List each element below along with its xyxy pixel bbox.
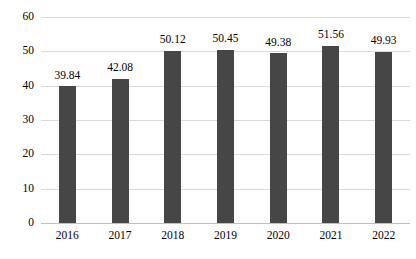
x-axis-tick-label: 2020 xyxy=(252,230,305,242)
bar[interactable] xyxy=(375,52,392,223)
bar[interactable] xyxy=(59,86,76,223)
bar-chart: 0102030405060 39.8442.0850.1250.4549.385… xyxy=(0,0,416,259)
bar-value-label: 42.08 xyxy=(107,62,133,74)
x-axis-tick-labels: 2016201720182019202020212022 xyxy=(41,230,410,242)
bar-value-label: 49.93 xyxy=(371,35,397,47)
y-axis-tick-label: 20 xyxy=(23,149,35,161)
x-axis-tick-label: 2017 xyxy=(94,230,147,242)
bar-value-label: 50.12 xyxy=(160,34,186,46)
bar-slot: 49.93 xyxy=(357,17,410,223)
x-axis-tick-label: 2022 xyxy=(357,230,410,242)
y-axis-tick-label: 30 xyxy=(23,114,35,126)
bar-slot: 50.12 xyxy=(146,17,199,223)
bar-slot: 49.38 xyxy=(252,17,305,223)
y-axis-tick-label: 40 xyxy=(23,80,35,92)
bar-value-label: 39.84 xyxy=(54,70,80,82)
x-axis-tick-label: 2019 xyxy=(199,230,252,242)
x-axis-tick-label: 2018 xyxy=(146,230,199,242)
x-axis-tick-label: 2021 xyxy=(305,230,358,242)
bars-group: 39.8442.0850.1250.4549.3851.5649.93 xyxy=(41,17,410,223)
y-axis-tick-label: 60 xyxy=(23,11,35,23)
bar[interactable] xyxy=(164,51,181,223)
x-axis-tick-label: 2016 xyxy=(41,230,94,242)
bar-slot: 39.84 xyxy=(41,17,94,223)
bar[interactable] xyxy=(217,50,234,223)
bar[interactable] xyxy=(270,53,287,223)
y-axis-tick-label: 0 xyxy=(28,217,34,229)
bar[interactable] xyxy=(112,79,129,223)
gridline: 0 xyxy=(41,223,410,224)
bar-value-label: 50.45 xyxy=(213,33,239,45)
bar[interactable] xyxy=(322,46,339,223)
bar-slot: 51.56 xyxy=(305,17,358,223)
y-axis-tick-label: 50 xyxy=(23,46,35,58)
bar-value-label: 51.56 xyxy=(318,29,344,41)
bar-slot: 50.45 xyxy=(199,17,252,223)
plot-area: 0102030405060 39.8442.0850.1250.4549.385… xyxy=(41,17,410,223)
bar-value-label: 49.38 xyxy=(265,37,291,49)
y-axis-tick-label: 10 xyxy=(23,183,35,195)
bar-slot: 42.08 xyxy=(94,17,147,223)
